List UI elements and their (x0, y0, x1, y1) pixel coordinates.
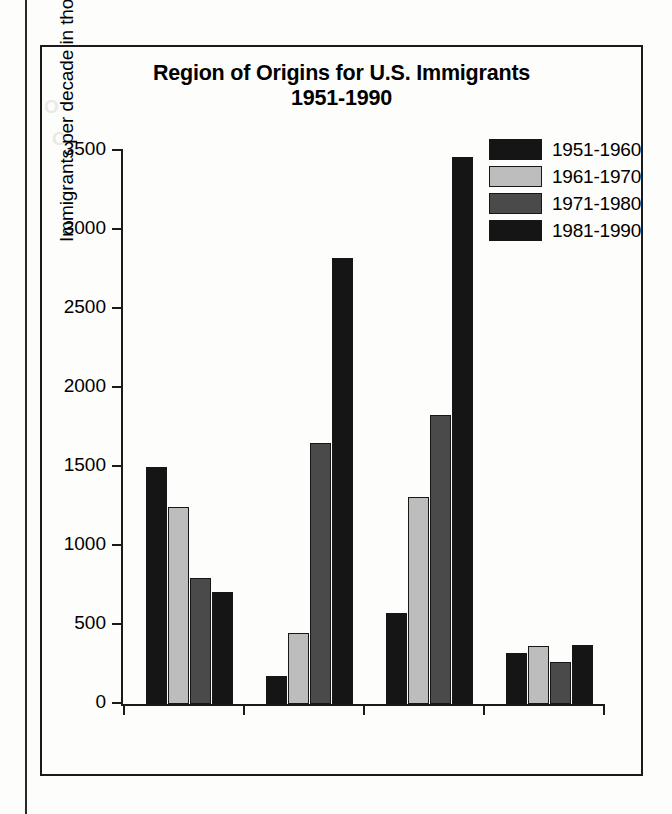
chart-title-line2: 1951-1990 (42, 86, 641, 111)
y-tick-label: 3000 (46, 217, 106, 239)
y-tick: 3000 (112, 228, 123, 230)
x-tick (363, 704, 365, 715)
y-tick: 1500 (112, 465, 123, 467)
x-axis-line (121, 704, 603, 706)
page-margin-rule (25, 0, 27, 814)
y-axis-title: Immigrants per decade in thousands (56, 0, 78, 242)
y-tick-label: 500 (46, 612, 106, 634)
bar (386, 613, 407, 704)
bar (452, 157, 473, 704)
y-tick: 0 (112, 702, 123, 704)
bar (310, 443, 331, 704)
y-tick-label: 3500 (46, 138, 106, 160)
bar (332, 258, 353, 704)
y-tick: 500 (112, 623, 123, 625)
bar (430, 415, 451, 704)
y-tick: 1000 (112, 544, 123, 546)
bar-group (123, 151, 243, 704)
bar (266, 676, 287, 704)
chart-title-line1: Region of Origins for U.S. Immigrants (153, 61, 530, 85)
y-tick-label: 2500 (46, 296, 106, 318)
x-tick (123, 704, 125, 715)
y-tick-label: 1000 (46, 533, 106, 555)
plot-area: 0500100015002000250030003500 EuropeAsiaL… (123, 151, 603, 704)
bar (506, 653, 527, 704)
y-tick: 3500 (112, 149, 123, 151)
y-tick: 2500 (112, 307, 123, 309)
x-tick (243, 704, 245, 715)
y-tick-label: 0 (46, 691, 106, 713)
bar-group (483, 151, 603, 704)
x-tick (483, 704, 485, 715)
bar (288, 633, 309, 704)
bar (528, 646, 549, 704)
y-tick: 2000 (112, 386, 123, 388)
bar (146, 467, 167, 704)
bar (550, 662, 571, 704)
y-tick-label: 2000 (46, 375, 106, 397)
bar (168, 507, 189, 705)
bar (408, 497, 429, 704)
bar-group (363, 151, 483, 704)
bar (190, 578, 211, 704)
y-tick-label: 1500 (46, 454, 106, 476)
bar-group (243, 151, 363, 704)
x-tick (603, 704, 605, 715)
bar (212, 592, 233, 704)
bar (572, 645, 593, 704)
chart-title: Region of Origins for U.S. Immigrants 19… (42, 61, 641, 111)
chart-frame: Region of Origins for U.S. Immigrants 19… (40, 45, 643, 776)
